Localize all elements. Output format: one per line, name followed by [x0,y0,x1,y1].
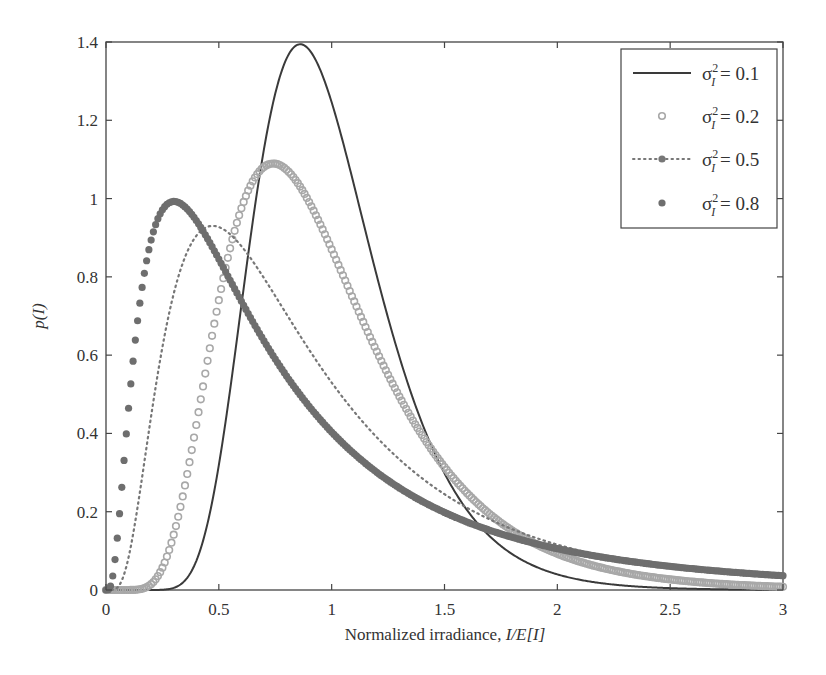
x-tick-label: 0 [102,600,111,619]
y-tick-label: 0.6 [77,346,98,365]
y-tick-label: 1.4 [77,33,99,52]
y-tick-label: 0 [90,581,99,600]
chart-canvas: 00.511.522.5300.20.40.60.811.21.4 Normal… [0,0,826,675]
y-tick-label: 0.8 [77,268,98,287]
series-0.5 [106,226,783,590]
y-tick-label: 1 [90,190,99,209]
y-tick-label: 0.2 [77,503,98,522]
x-tick-label: 1.5 [434,600,455,619]
y-axis-label: p(I) [29,303,48,330]
x-tick-label: 3 [779,600,788,619]
x-tick-label: 1 [327,600,336,619]
y-tick-label: 1.2 [77,111,98,130]
x-axis-label: Normalized irradiance, I/E[I] [345,625,546,644]
x-tick-label: 2.5 [660,600,681,619]
legend-symbol-icon [658,199,665,206]
x-tick-label: 2 [553,600,562,619]
legend: σ2I = 0.1σ2I = 0.2σ2I = 0.5σ2I = 0.8 [621,49,777,228]
x-tick-label: 0.5 [208,600,229,619]
y-tick-label: 0.4 [77,424,99,443]
